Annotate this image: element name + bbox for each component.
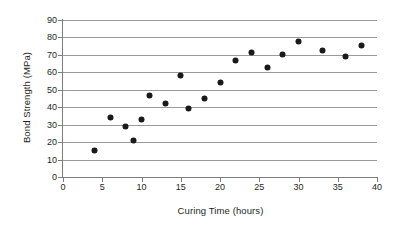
- data-point: [320, 48, 325, 53]
- x-tick-label: 0: [50, 183, 76, 192]
- y-tick-label: 80: [31, 33, 57, 42]
- gridline: [63, 55, 377, 56]
- x-tick-label: 30: [286, 183, 312, 192]
- x-tick-mark: [299, 178, 300, 182]
- data-point: [131, 138, 136, 143]
- y-tick-mark: [58, 20, 62, 21]
- x-tick-mark: [102, 178, 103, 182]
- y-tick-mark: [58, 177, 62, 178]
- data-point: [280, 52, 285, 57]
- x-tick-mark: [377, 178, 378, 182]
- y-tick-mark: [58, 107, 62, 108]
- x-tick-mark: [338, 178, 339, 182]
- x-tick-label: 20: [207, 183, 233, 192]
- x-tick-label: 15: [168, 183, 194, 192]
- gridline: [63, 20, 377, 21]
- data-point: [139, 117, 144, 122]
- y-tick-mark: [58, 90, 62, 91]
- y-tick-label: 60: [31, 68, 57, 77]
- data-point: [233, 58, 238, 63]
- y-tick-label: 30: [31, 121, 57, 130]
- y-axis-title: Bond Strength (MPa): [21, 18, 32, 178]
- data-point: [265, 65, 270, 70]
- data-point: [186, 106, 191, 111]
- y-tick-label: 20: [31, 138, 57, 147]
- x-tick-label: 40: [364, 183, 390, 192]
- x-tick-label: 35: [325, 183, 351, 192]
- x-tick-mark: [259, 178, 260, 182]
- data-point: [163, 101, 168, 106]
- plot-area: [63, 20, 377, 177]
- data-point: [147, 93, 152, 98]
- gridline: [63, 125, 377, 126]
- y-tick-mark: [58, 125, 62, 126]
- x-tick-mark: [142, 178, 143, 182]
- x-axis-title: Curing Time (hours): [63, 205, 378, 216]
- gridline: [63, 37, 377, 38]
- y-tick-label: 50: [31, 86, 57, 95]
- y-tick-label: 0: [31, 173, 57, 182]
- x-tick-mark: [220, 178, 221, 182]
- y-tick-mark: [58, 160, 62, 161]
- data-point: [343, 54, 348, 59]
- data-point: [218, 80, 223, 85]
- gridline: [63, 72, 377, 73]
- gridline: [63, 107, 377, 108]
- data-point: [359, 43, 364, 48]
- x-tick-mark: [63, 178, 64, 182]
- gridline: [63, 90, 377, 91]
- data-point: [202, 96, 207, 101]
- y-tick-mark: [58, 37, 62, 38]
- y-tick-label: 10: [31, 156, 57, 165]
- x-tick-label: 5: [89, 183, 115, 192]
- x-tick-mark: [181, 178, 182, 182]
- y-tick-label: 70: [31, 51, 57, 60]
- y-tick-mark: [58, 72, 62, 73]
- y-tick-label: 40: [31, 103, 57, 112]
- x-tick-label: 10: [129, 183, 155, 192]
- scatter-chart: Bond Strength (MPa) 0102030405060708090 …: [0, 0, 397, 229]
- x-tick-label: 25: [246, 183, 272, 192]
- data-point: [249, 50, 254, 55]
- y-tick-mark: [58, 55, 62, 56]
- data-point: [178, 73, 183, 78]
- gridline: [63, 160, 377, 161]
- y-tick-label: 90: [31, 16, 57, 25]
- data-point: [108, 115, 113, 120]
- data-point: [123, 124, 128, 129]
- data-point: [92, 148, 97, 153]
- gridline: [63, 142, 377, 143]
- data-point: [296, 39, 301, 44]
- y-tick-mark: [58, 142, 62, 143]
